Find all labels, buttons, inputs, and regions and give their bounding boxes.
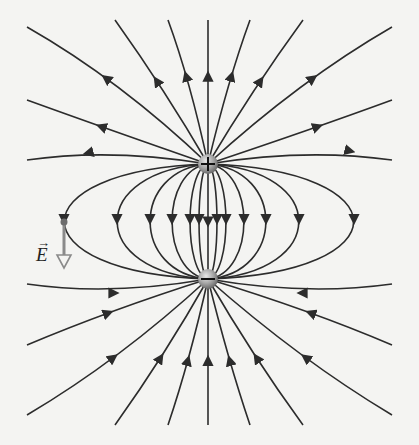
field-lines xyxy=(0,0,419,445)
field-line xyxy=(208,164,299,279)
field-line xyxy=(208,20,303,164)
field-line xyxy=(208,155,392,164)
field-vector-arrow xyxy=(57,219,71,269)
field-line xyxy=(117,164,208,279)
field-line xyxy=(115,279,208,425)
field-line xyxy=(208,279,303,425)
arrowhead xyxy=(346,150,350,151)
field-line xyxy=(115,20,208,164)
positive-charge xyxy=(198,154,218,174)
field-vector-label: →E xyxy=(36,244,48,266)
arrowhead xyxy=(88,152,92,153)
field-line xyxy=(208,27,392,164)
field-line xyxy=(208,279,392,415)
field-line xyxy=(208,164,354,279)
negative-charge xyxy=(198,269,218,289)
field-line xyxy=(208,279,250,425)
field-line xyxy=(27,27,208,164)
field-line xyxy=(27,279,208,415)
field-line xyxy=(208,164,217,279)
field-line xyxy=(168,279,208,425)
field-line xyxy=(27,155,208,164)
field-line xyxy=(208,20,250,164)
field-line xyxy=(168,20,208,164)
field-line xyxy=(199,164,208,279)
dipole-diagram: →E xyxy=(0,0,419,445)
field-line xyxy=(64,164,208,279)
